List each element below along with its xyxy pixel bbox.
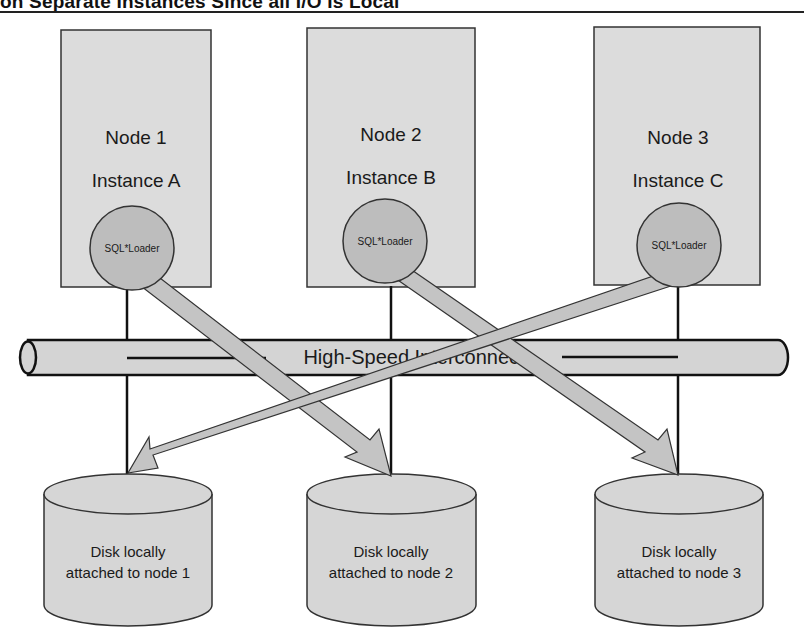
node-3-label: Node 3 — [647, 127, 708, 148]
sql-loader-process-3: SQL*Loader — [637, 203, 721, 287]
disk-2-label-line2: attached to node 2 — [329, 564, 453, 581]
sql-loader-process-1: SQL*Loader — [90, 206, 174, 290]
node-3-instance-label: Instance C — [633, 170, 724, 191]
node-2-instance-label: Instance B — [346, 167, 436, 188]
disk-3-label-line1: Disk locally — [641, 543, 717, 560]
disk-2: Disk locally attached to node 2 — [307, 474, 476, 626]
disk-1-label-line1: Disk locally — [90, 543, 166, 560]
node-1-instance-label: Instance A — [92, 170, 181, 191]
disk-1-label-line2: attached to node 1 — [66, 564, 190, 581]
interconnect-tube-end-cap — [20, 342, 36, 374]
disk-3-label-line2: attached to node 3 — [617, 564, 741, 581]
disk-2-top — [307, 474, 476, 514]
disk-1-top — [44, 474, 212, 514]
disk-3: Disk locally attached to node 3 — [595, 474, 763, 626]
disk-3-top — [595, 474, 763, 514]
cluster-diagram: Node 1 Instance A Node 2 Instance B Node… — [0, 0, 804, 633]
disk-1: Disk locally attached to node 1 — [44, 474, 212, 626]
node-2-label: Node 2 — [360, 124, 421, 145]
node-1-label: Node 1 — [105, 127, 166, 148]
sql-loader-2-label: SQL*Loader — [357, 236, 413, 247]
sql-loader-1-label: SQL*Loader — [104, 243, 160, 254]
sql-loader-process-2: SQL*Loader — [343, 199, 427, 283]
disk-2-label-line1: Disk locally — [353, 543, 429, 560]
sql-loader-3-label: SQL*Loader — [651, 240, 707, 251]
